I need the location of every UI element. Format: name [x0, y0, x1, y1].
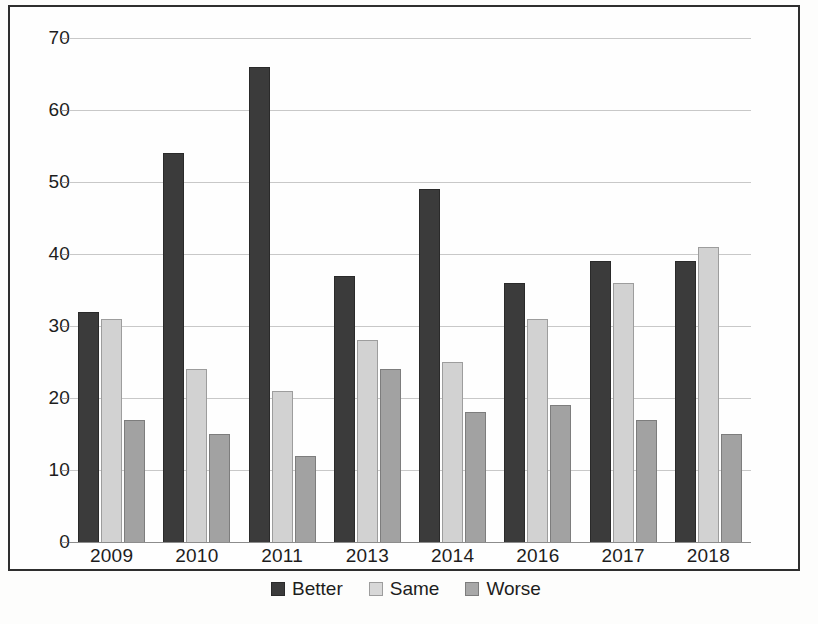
- y-axis: 010203040506070: [26, 38, 70, 542]
- x-axis: 20092010201120132014201620172018: [69, 545, 751, 573]
- x-axis-tick-label: 2017: [581, 545, 666, 573]
- bar-better[interactable]: [675, 261, 696, 542]
- legend-item-same[interactable]: Same: [369, 578, 440, 600]
- bar-same[interactable]: [527, 319, 548, 542]
- bar-same[interactable]: [272, 391, 293, 542]
- legend-item-better[interactable]: Better: [271, 578, 343, 600]
- bar-worse[interactable]: [124, 420, 145, 542]
- legend-item-worse[interactable]: Worse: [465, 578, 541, 600]
- bar-group: [69, 38, 154, 542]
- y-axis-tickmark: [61, 182, 68, 183]
- legend-label: Same: [390, 578, 440, 600]
- bar-group: [154, 38, 239, 542]
- bar-groups: [69, 38, 751, 542]
- y-axis-tickmark: [61, 398, 68, 399]
- bar-same[interactable]: [101, 319, 122, 542]
- bar-same[interactable]: [442, 362, 463, 542]
- chart-legend: BetterSameWorse: [10, 578, 802, 600]
- x-axis-tick-label: 2016: [495, 545, 580, 573]
- legend-label: Better: [292, 578, 343, 600]
- bar-same[interactable]: [613, 283, 634, 542]
- bar-better[interactable]: [163, 153, 184, 542]
- legend-swatch-icon: [271, 582, 285, 596]
- y-axis-tickmark: [61, 542, 68, 543]
- x-axis-tick-label: 2014: [410, 545, 495, 573]
- axis-baseline: [69, 542, 751, 543]
- bar-worse[interactable]: [209, 434, 230, 542]
- bar-group: [495, 38, 580, 542]
- legend-swatch-icon: [369, 582, 383, 596]
- bar-worse[interactable]: [636, 420, 657, 542]
- bar-worse[interactable]: [295, 456, 316, 542]
- bar-worse[interactable]: [465, 412, 486, 542]
- x-axis-tick-label: 2009: [69, 545, 154, 573]
- chart-page: 010203040506070 200920102011201320142016…: [0, 0, 818, 624]
- legend-swatch-icon: [465, 582, 479, 596]
- bar-same[interactable]: [186, 369, 207, 542]
- chart-frame: 010203040506070 200920102011201320142016…: [8, 5, 800, 571]
- bar-group: [410, 38, 495, 542]
- y-axis-tickmark: [61, 110, 68, 111]
- y-axis-tickmark: [61, 254, 68, 255]
- bar-worse[interactable]: [721, 434, 742, 542]
- y-axis-tickmark: [61, 470, 68, 471]
- bar-group: [325, 38, 410, 542]
- bar-better[interactable]: [590, 261, 611, 542]
- y-axis-tickmark: [61, 38, 68, 39]
- bar-better[interactable]: [249, 67, 270, 542]
- bar-group: [581, 38, 666, 542]
- bar-worse[interactable]: [380, 369, 401, 542]
- bar-better[interactable]: [334, 276, 355, 542]
- legend-label: Worse: [486, 578, 541, 600]
- y-axis-tickmark: [61, 326, 68, 327]
- x-axis-tick-label: 2010: [154, 545, 239, 573]
- bar-better[interactable]: [504, 283, 525, 542]
- bar-better[interactable]: [419, 189, 440, 542]
- x-axis-tick-label: 2011: [240, 545, 325, 573]
- bar-group: [240, 38, 325, 542]
- bar-same[interactable]: [357, 340, 378, 542]
- bar-worse[interactable]: [550, 405, 571, 542]
- bar-group: [666, 38, 751, 542]
- bar-same[interactable]: [698, 247, 719, 542]
- bar-better[interactable]: [78, 312, 99, 542]
- x-axis-tick-label: 2013: [325, 545, 410, 573]
- x-axis-tick-label: 2018: [666, 545, 751, 573]
- plot-area: [69, 38, 751, 542]
